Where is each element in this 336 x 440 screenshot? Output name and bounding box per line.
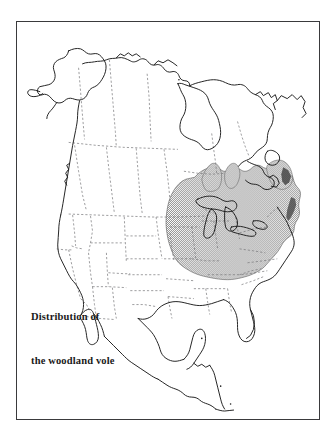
island-dot-3: [230, 403, 232, 405]
border-co-nm: [93, 287, 127, 288]
north-america-map: [17, 22, 319, 419]
coast-alaska: [37, 48, 106, 103]
border-mn-wi: [156, 217, 162, 259]
island-dot-1: [201, 338, 203, 340]
range-shading-group: [166, 160, 301, 280]
border-ok-tx: [132, 305, 156, 307]
border-bc-alberta: [75, 145, 87, 211]
border-ar-la: [168, 297, 194, 299]
border-60th-parallel: [69, 142, 178, 149]
border-or-ca: [57, 249, 73, 250]
coast-central-america: [158, 379, 216, 409]
map-frame-border: Distribution of the woodland vole: [16, 21, 320, 420]
border-wy-sd: [124, 217, 126, 261]
coast-mexico-west: [104, 336, 158, 379]
border-or-id: [72, 246, 83, 249]
range-shade-great-lakes: [202, 163, 222, 191]
border-la-tx: [168, 297, 172, 319]
coast-gulf-california: [93, 314, 104, 337]
border-co-ks: [108, 273, 130, 274]
coast-canada-north: [83, 58, 190, 86]
border-al-ga: [228, 289, 232, 313]
coast-mexico-east: [138, 319, 184, 362]
border-quebec-labrador: [238, 121, 250, 157]
coast-greenland-edge: [277, 95, 306, 118]
coast-yucatan: [184, 329, 206, 369]
coast-baja: [81, 309, 99, 344]
border-ms-al: [206, 289, 210, 315]
border-nm-tx: [112, 288, 116, 319]
island-dot-2: [220, 385, 222, 387]
coast-central-america-east: [210, 365, 225, 409]
border-nunavut-east: [147, 74, 151, 142]
border-wa-id: [73, 215, 76, 246]
coast-alaska-southwest: [47, 103, 57, 119]
border-nv-ut: [89, 253, 93, 287]
border-alberta-sask: [106, 147, 114, 213]
coast-gulf: [138, 300, 223, 320]
island-dot-4: [178, 79, 180, 81]
coast-canada-north-islands: [116, 53, 140, 58]
distribution-map-figure: Distribution of the woodland vole: [0, 0, 336, 440]
border-manitoba-ontario: [164, 149, 170, 201]
border-ut-co: [106, 253, 108, 287]
coast-florida-detail: [246, 310, 254, 339]
border-id-mt: [89, 216, 93, 253]
border-mo-ar: [166, 279, 194, 281]
border-az-mexico: [87, 317, 115, 320]
border-ca-nv: [69, 250, 81, 299]
coast-usa-west: [58, 215, 84, 315]
border-nwt-nunavut: [109, 60, 116, 148]
border-sask-manitoba: [136, 148, 142, 213]
coast-labrador-jag: [255, 92, 277, 110]
coast-yucatan-notch: [194, 363, 210, 367]
coast-hudson-bay: [178, 83, 221, 149]
